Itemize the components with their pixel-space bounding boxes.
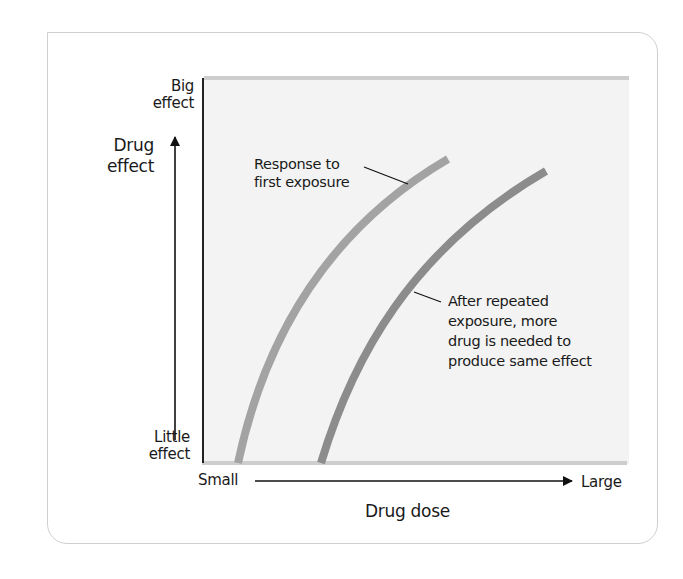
x-axis-left-label: Small (198, 472, 238, 489)
y-axis-bottom-label: Little effect (130, 429, 190, 463)
leader-repeated-exposure (414, 292, 441, 302)
annotation-repeated-line2: exposure, more (448, 311, 592, 331)
annotation-first-line2: first exposure (254, 172, 349, 193)
y-top-label-line2: effect (130, 95, 194, 112)
annotation-repeated-line1: After repeated (448, 291, 592, 311)
curve-first-exposure (238, 159, 448, 463)
y-bottom-label-line1: Little (130, 429, 190, 446)
y-top-label-line1: Big (130, 78, 194, 95)
y-axis-title: Drug effect (76, 135, 154, 177)
leader-first-exposure (364, 167, 408, 184)
annotation-repeated-line4: produce same effect (448, 351, 592, 371)
y-axis-title-line1: Drug (76, 135, 154, 156)
y-axis-title-line2: effect (76, 156, 154, 177)
chart-overlay (0, 0, 683, 579)
annotation-first-exposure: Response to first exposure (254, 154, 349, 193)
x-axis-right-label: Large (581, 474, 622, 491)
x-axis-title: Drug dose (365, 501, 450, 522)
annotation-repeated-line3: drug is needed to (448, 331, 592, 351)
y-axis-top-label: Big effect (130, 78, 194, 112)
y-bottom-label-line2: effect (130, 446, 190, 463)
annotation-repeated-exposure: After repeated exposure, more drug is ne… (448, 291, 592, 371)
